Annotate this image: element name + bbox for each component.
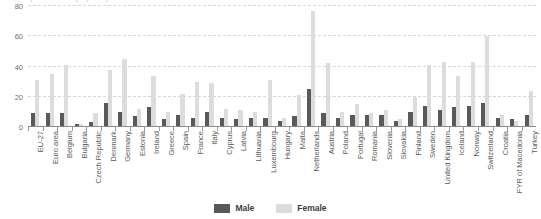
bar-group	[144, 6, 159, 127]
bar-group	[522, 6, 537, 127]
bar-group	[289, 6, 304, 127]
x-axis-label-cell: Italy	[202, 131, 217, 191]
bar-group	[217, 6, 232, 127]
bar-group	[333, 6, 348, 127]
bar-group	[202, 6, 217, 127]
bar-female	[326, 63, 330, 127]
bar-group	[43, 6, 58, 127]
x-axis-label-cell: Romania	[362, 131, 377, 191]
x-axis-label-cell: Netherlands	[304, 131, 319, 191]
bar-group	[463, 6, 478, 127]
x-axis-label-cell: Portugal	[347, 131, 362, 191]
bar-group	[173, 6, 188, 127]
x-axis-label-cell: Iceland	[449, 131, 464, 191]
y-axis-tick-label: 40	[15, 62, 23, 71]
bar-group	[391, 6, 406, 127]
x-axis-label-cell: Greece	[159, 131, 174, 191]
x-axis-label-cell: Ireland	[144, 131, 159, 191]
x-axis-labels: EU-27Euro areaBelgiumBulgariaCzech Repub…	[28, 131, 536, 191]
bar-female	[64, 65, 68, 127]
bar-female	[195, 82, 199, 127]
x-axis-label-cell: EU-27	[28, 131, 43, 191]
x-axis-label-cell: Hungary	[275, 131, 290, 191]
bar-group	[507, 6, 522, 127]
bar-female	[297, 95, 301, 127]
bar-female	[180, 94, 184, 127]
bar-group	[376, 6, 391, 127]
bar-group	[347, 6, 362, 127]
x-axis-label-cell: United Kingdom	[434, 131, 449, 191]
x-axis-label-cell: Sweden	[420, 131, 435, 191]
x-axis-label-cell: Poland	[333, 131, 348, 191]
bar-group	[304, 6, 319, 127]
bar-female	[413, 97, 417, 127]
bar-female	[340, 112, 344, 127]
x-axis-label-cell: Estonia	[130, 131, 145, 191]
bar-group	[362, 6, 377, 127]
bar-group	[101, 6, 116, 127]
bar-female	[224, 109, 228, 127]
chart-legend: MaleFemale	[0, 203, 541, 213]
bar-group	[246, 6, 261, 127]
x-axis-label-cell: Croatia	[493, 131, 508, 191]
x-axis-label-cell: Cyprus	[217, 131, 232, 191]
x-axis-label-cell: Latvia	[231, 131, 246, 191]
bar-group	[318, 6, 333, 127]
bar-series-container	[28, 6, 536, 127]
x-axis-label-cell: Malta	[289, 131, 304, 191]
x-axis-label-cell: Euro area	[43, 131, 58, 191]
x-axis-label-cell: Switzerland	[478, 131, 493, 191]
legend-label: Female	[297, 203, 326, 213]
bar-female	[166, 112, 170, 127]
legend-item-female[interactable]: Female	[276, 203, 326, 213]
x-axis-label-cell: Austria	[318, 131, 333, 191]
x-axis-label-cell: Luxembourg	[260, 131, 275, 191]
bar-group	[28, 6, 43, 127]
bar-group	[57, 6, 72, 127]
legend-item-male[interactable]: Male	[214, 203, 254, 213]
bar-female	[369, 113, 373, 127]
plot-area: 020406080	[28, 6, 536, 127]
bar-female	[311, 11, 315, 127]
x-axis-label-cell: Belgium	[57, 131, 72, 191]
bar-group	[478, 6, 493, 127]
bar-group	[86, 6, 101, 127]
chart-title: (% of total employment)	[30, 0, 109, 1]
bar-female	[137, 109, 141, 127]
bar-group	[449, 6, 464, 127]
x-axis-label-cell: Turkey	[522, 131, 537, 191]
x-axis-label-cell: Norway	[463, 131, 478, 191]
bar-female	[355, 104, 359, 127]
bar-female	[268, 80, 272, 127]
y-axis-tick-label: 60	[15, 32, 23, 41]
bar-female	[384, 110, 388, 127]
bar-female	[471, 62, 475, 127]
x-axis-label-cell: Bulgaria	[72, 131, 87, 191]
x-axis-label-cell: Czech Republic	[86, 131, 101, 191]
bar-female	[442, 62, 446, 127]
bar-group	[130, 6, 145, 127]
x-axis-label-cell: Lithuania	[246, 131, 261, 191]
x-axis-tick-label: Turkey	[531, 131, 539, 154]
legend-swatch-female	[276, 204, 292, 213]
bar-female	[50, 74, 54, 127]
x-axis-label-cell: Slovakia	[391, 131, 406, 191]
bar-female	[122, 59, 126, 127]
bar-group	[493, 6, 508, 127]
bar-female	[93, 113, 97, 127]
bar-group	[72, 6, 87, 127]
bar-female	[151, 76, 155, 127]
bar-group	[115, 6, 130, 127]
bar-female	[456, 76, 460, 127]
bar-female	[529, 91, 533, 127]
legend-label: Male	[235, 203, 254, 213]
x-axis-label-cell: Germany	[115, 131, 130, 191]
bar-female	[35, 80, 39, 127]
bar-group	[231, 6, 246, 127]
x-axis-label-cell: FYR of Macedonia	[507, 131, 522, 191]
bar-female	[108, 70, 112, 127]
bar-group	[188, 6, 203, 127]
x-axis-label-cell: Finland	[405, 131, 420, 191]
y-axis-tick-label: 20	[15, 92, 23, 101]
bar-group	[434, 6, 449, 127]
